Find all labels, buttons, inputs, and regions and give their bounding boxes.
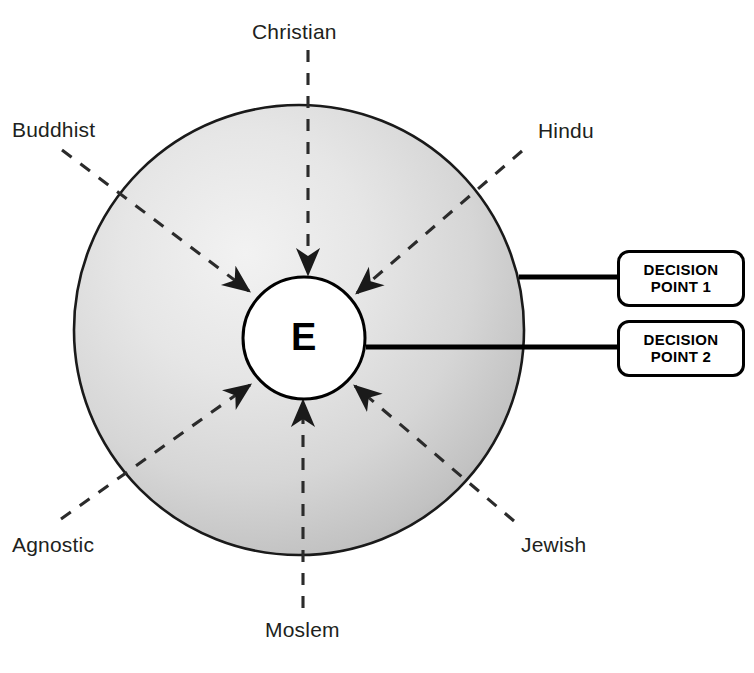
decision-point-1-line-2: POINT 1	[651, 279, 711, 296]
spoke-label-christian: Christian	[252, 20, 337, 44]
spoke-label-agnostic: Agnostic	[12, 533, 94, 557]
decision-point-1-line-1: DECISION	[644, 262, 719, 279]
spoke-label-hindu: Hindu	[538, 119, 594, 143]
spoke-label-moslem: Moslem	[265, 618, 340, 642]
spoke-label-jewish: Jewish	[521, 533, 586, 557]
center-label: E	[291, 316, 316, 359]
decision-point-2-box[interactable]: DECISION POINT 2	[617, 320, 745, 377]
diagram-canvas: E Christian Hindu Jewish Moslem Agnostic…	[0, 0, 754, 673]
decision-point-2-line-1: DECISION	[644, 332, 719, 349]
decision-point-2-line-2: POINT 2	[651, 349, 711, 366]
spoke-label-buddhist: Buddhist	[12, 118, 95, 142]
decision-point-1-box[interactable]: DECISION POINT 1	[617, 250, 745, 307]
